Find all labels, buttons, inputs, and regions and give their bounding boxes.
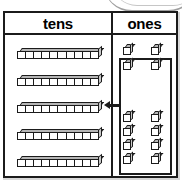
arrow-shaft: [109, 104, 121, 107]
tens-column-body: [5, 35, 111, 176]
tens-rod-unit: [18, 106, 26, 112]
cube-front-face: [123, 62, 131, 70]
page-edge-shadow-right: [178, 12, 180, 180]
tens-rod-unit: [58, 133, 66, 139]
ones-cube-in-box[interactable]: [151, 153, 162, 164]
cube-front-face: [151, 47, 159, 55]
tens-rod-unit: [18, 79, 26, 85]
tens-rod-unit: [18, 160, 26, 166]
tens-rod-unit: [26, 160, 34, 166]
ones-cube-in-box[interactable]: [123, 125, 134, 136]
page-edge-shadow-bottom: [3, 178, 179, 180]
tens-rod-unit: [34, 79, 42, 85]
tens-rod-unit: [67, 106, 75, 112]
cube-front-face: [151, 114, 159, 122]
tens-rod-front-face: [17, 159, 99, 167]
ones-column-body: [113, 35, 176, 176]
tens-rod-unit: [75, 160, 83, 166]
tens-rod-unit: [42, 133, 50, 139]
tens-rod-unit: [50, 52, 58, 58]
place-value-chart-screenshot: tens ones: [0, 0, 182, 188]
tens-rod-unit: [50, 79, 58, 85]
cube-front-face: [123, 156, 131, 164]
tens-rod-unit: [83, 52, 91, 58]
tens-rod-unit: [75, 52, 83, 58]
arrow-head: [104, 101, 110, 109]
tens-rod-unit: [50, 160, 58, 166]
regroup-arrow-icon: [104, 101, 121, 110]
chart-header-row: tens ones: [5, 13, 176, 35]
ones-cube-in-box[interactable]: [123, 59, 134, 70]
tens-rod-unit: [26, 133, 34, 139]
cube-front-face: [151, 62, 159, 70]
tens-rod-unit: [75, 106, 83, 112]
tens-rod-unit: [67, 133, 75, 139]
column-header-ones: ones: [113, 13, 176, 33]
ones-cube-outside-box[interactable]: [123, 44, 134, 55]
tens-rod-unit: [67, 52, 75, 58]
tens-rod-unit: [91, 106, 98, 112]
cube-front-face: [123, 114, 131, 122]
tens-rod-unit: [58, 79, 66, 85]
tens-rod-front-face: [17, 51, 99, 59]
ones-cube-in-box[interactable]: [151, 125, 162, 136]
cube-front-face: [123, 128, 131, 136]
cube-front-face: [123, 47, 131, 55]
tens-rod-unit: [42, 79, 50, 85]
tens-rod[interactable]: [17, 102, 101, 113]
tens-rod-unit: [18, 133, 26, 139]
tens-rod-unit: [91, 160, 98, 166]
tens-rod-unit: [34, 133, 42, 139]
tens-rod-unit: [75, 133, 83, 139]
tens-rod[interactable]: [17, 129, 101, 140]
tens-rod-front-face: [17, 105, 99, 113]
tens-rod[interactable]: [17, 48, 101, 59]
tens-rod-unit: [83, 133, 91, 139]
tens-rod-unit: [26, 106, 34, 112]
tens-rod-unit: [50, 133, 58, 139]
cube-front-face: [123, 142, 131, 150]
tens-rod-front-face: [17, 132, 99, 140]
cube-front-face: [151, 128, 159, 136]
ones-cube-in-box[interactable]: [151, 59, 162, 70]
cube-front-face: [151, 142, 159, 150]
tens-rod-unit: [42, 52, 50, 58]
tens-rod-unit: [34, 106, 42, 112]
tens-rod-unit: [83, 106, 91, 112]
cube-front-face: [151, 156, 159, 164]
tens-rod-unit: [58, 106, 66, 112]
tens-rod-unit: [91, 133, 98, 139]
tens-rod[interactable]: [17, 156, 101, 167]
tens-rod-unit: [83, 160, 91, 166]
tens-rod-unit: [91, 52, 98, 58]
ones-cube-in-box[interactable]: [151, 111, 162, 122]
tens-rod-unit: [91, 79, 98, 85]
tens-rod-unit: [42, 106, 50, 112]
tens-rod-unit: [50, 106, 58, 112]
tens-rod-unit: [18, 52, 26, 58]
tens-rod-unit: [58, 52, 66, 58]
tens-rod-unit: [26, 79, 34, 85]
tens-rod[interactable]: [17, 75, 101, 86]
tens-rod-unit: [42, 160, 50, 166]
tens-rod-unit: [26, 52, 34, 58]
tens-rod-front-face: [17, 78, 99, 86]
tens-rod-unit: [67, 79, 75, 85]
ones-cube-in-box[interactable]: [123, 111, 134, 122]
tens-rod-unit: [75, 79, 83, 85]
ones-cube-in-box[interactable]: [123, 153, 134, 164]
ones-cube-in-box[interactable]: [123, 139, 134, 150]
column-header-tens: tens: [5, 13, 111, 33]
ones-cube-outside-box[interactable]: [151, 44, 162, 55]
tens-rod-unit: [58, 160, 66, 166]
tens-rod-unit: [34, 160, 42, 166]
tens-rod-unit: [67, 160, 75, 166]
tens-rod-unit: [83, 79, 91, 85]
ones-cube-in-box[interactable]: [151, 139, 162, 150]
place-value-chart: tens ones: [3, 11, 178, 178]
tens-rod-unit: [34, 52, 42, 58]
